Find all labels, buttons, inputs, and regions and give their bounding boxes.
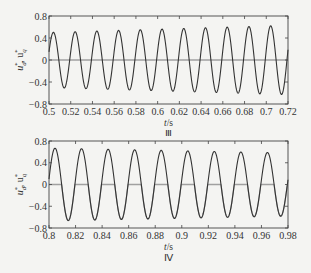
- y-tick-label: 0.4: [35, 33, 48, 44]
- panel-label: Ⅳ: [164, 252, 174, 263]
- y-tick-label: 0.8: [35, 11, 48, 22]
- y-tick-label: 0.8: [35, 136, 48, 147]
- x-tick-label: 0.88: [146, 230, 164, 241]
- x-axis-label: t/s: [164, 242, 173, 252]
- chart-panel-iv: 0.80.820.840.860.880.90.920.940.960.980.…: [0, 125, 311, 273]
- x-tick-label: 0.64: [192, 106, 210, 117]
- chart-panel-iii: 0.50.520.540.560.580.60.620.640.660.680.…: [0, 0, 311, 136]
- x-tick-label: 0.54: [84, 106, 102, 117]
- chart-iv: 0.80.820.840.860.880.90.920.940.960.980.…: [0, 125, 311, 273]
- y-axis-label: ud*, uq*: [13, 49, 28, 71]
- x-tick-label: 0.7: [260, 106, 273, 117]
- chart-iii: 0.50.520.540.560.580.60.620.640.660.680.…: [0, 0, 311, 136]
- x-tick-label: 0.86: [120, 230, 138, 241]
- x-tick-label: 0.82: [67, 230, 85, 241]
- x-tick-label: 0.6: [151, 106, 164, 117]
- x-tick-label: 0.66: [214, 106, 232, 117]
- x-tick-label: 0.72: [279, 106, 297, 117]
- x-tick-label: 0.52: [62, 106, 80, 117]
- y-axis-label: ud*, uq*: [13, 173, 28, 195]
- x-tick-label: 0.96: [253, 230, 271, 241]
- y-tick-label: −0.4: [29, 201, 47, 212]
- x-tick-label: 0.62: [171, 106, 189, 117]
- x-tick-label: 0.58: [127, 106, 145, 117]
- y-tick-label: −0.8: [29, 223, 47, 234]
- y-tick-label: −0.4: [29, 77, 47, 88]
- x-tick-label: 0.68: [236, 106, 254, 117]
- y-tick-label: −0.8: [29, 99, 47, 110]
- x-tick-label: 0.9: [176, 230, 189, 241]
- x-tick-label: 0.84: [93, 230, 111, 241]
- y-tick-label: 0: [42, 179, 47, 190]
- x-tick-label: 0.92: [200, 230, 218, 241]
- x-tick-label: 0.56: [105, 106, 123, 117]
- y-tick-label: 0: [42, 55, 47, 66]
- y-tick-label: 0.4: [35, 157, 48, 168]
- x-tick-label: 0.94: [226, 230, 244, 241]
- x-tick-label: 0.98: [279, 230, 297, 241]
